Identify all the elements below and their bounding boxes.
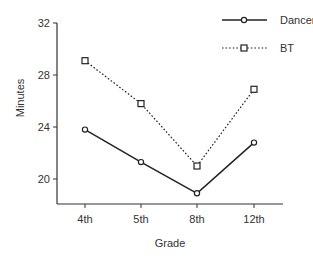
x-axis-ticks: 4th5th8th12th <box>77 204 264 225</box>
series-line-dancer <box>85 130 254 194</box>
x-tick-label: 8th <box>189 213 204 225</box>
legend-label-bt: BT <box>280 42 294 54</box>
legend-item-bt: BT <box>222 42 294 54</box>
data-point-bt <box>82 58 88 64</box>
data-point-bt <box>194 163 200 169</box>
data-point-dancer <box>251 140 256 145</box>
y-tick-label: 20 <box>38 173 50 185</box>
y-axis-title: Minutes <box>14 78 26 117</box>
x-axis-title: Grade <box>155 237 186 249</box>
legend-label-dancer: Dancer <box>280 14 313 26</box>
y-tick-label: 24 <box>38 121 50 133</box>
data-point-dancer <box>138 160 143 165</box>
series-dancer <box>82 127 256 196</box>
series-group <box>82 58 257 196</box>
series-line-bt <box>85 61 254 166</box>
data-point-dancer <box>82 127 87 132</box>
legend-marker-bt <box>241 45 247 51</box>
legend: DancerBT <box>222 14 313 54</box>
legend-marker-dancer <box>241 17 246 22</box>
data-point-bt <box>138 101 144 107</box>
data-point-dancer <box>194 191 199 196</box>
y-axis-ticks: 20242832 <box>38 17 57 185</box>
axes <box>57 23 283 204</box>
x-tick-label: 4th <box>77 213 92 225</box>
x-tick-label: 12th <box>243 213 264 225</box>
x-tick-label: 5th <box>133 213 148 225</box>
series-bt <box>82 58 257 169</box>
line-chart: 20242832 4th5th8th12th Grade Minutes Dan… <box>0 0 313 258</box>
data-point-bt <box>251 86 257 92</box>
y-tick-label: 32 <box>38 17 50 29</box>
legend-item-dancer: Dancer <box>222 14 313 26</box>
y-tick-label: 28 <box>38 69 50 81</box>
